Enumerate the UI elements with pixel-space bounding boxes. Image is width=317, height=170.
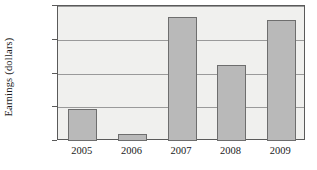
y-axis-title: Earnings (dollars) xyxy=(2,2,16,152)
bar-2008 xyxy=(217,65,246,141)
x-axis-tick-label-2007: 2007 xyxy=(157,145,205,156)
bar-chart-figure: Earnings (dollars) 34,50035,00035,50036,… xyxy=(0,0,317,170)
x-axis-tick-label-2005: 2005 xyxy=(58,145,106,156)
x-axis-tick-label-2006: 2006 xyxy=(107,145,155,156)
y-axis-tick-mark xyxy=(52,140,57,141)
bar-2006 xyxy=(118,134,147,141)
plot-area xyxy=(57,5,305,140)
bar-2007 xyxy=(168,17,197,141)
x-axis-tick-label-2009: 2009 xyxy=(256,145,304,156)
x-axis-tick-label-2008: 2008 xyxy=(207,145,255,156)
gridline xyxy=(58,6,304,7)
bar-2009 xyxy=(267,20,296,141)
bar-2005 xyxy=(68,109,97,141)
